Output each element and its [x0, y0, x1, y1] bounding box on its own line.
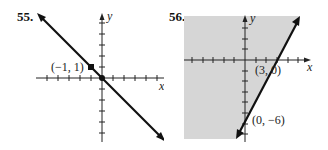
- y-axis-label-56: y: [249, 11, 256, 25]
- graph-55: 55. y x (−1, 1): [0, 0, 164, 150]
- figure-number-56: 56.: [169, 9, 185, 24]
- point-origin: [99, 75, 105, 81]
- point-label-55: (−1, 1): [51, 60, 84, 74]
- y-axis-arrow-icon: [100, 13, 105, 20]
- figure-number-55: 55.: [17, 9, 33, 24]
- point-neg1-1: [88, 64, 94, 70]
- point-label-3-0: (3, 0): [255, 63, 281, 77]
- y-axis-label-55: y: [106, 9, 113, 23]
- graph-56: 56. y x (3, 0) (0, −6): [164, 0, 328, 150]
- point-label-0-neg6: (0, −6): [252, 113, 285, 127]
- x-axis-label-56: x: [306, 60, 313, 74]
